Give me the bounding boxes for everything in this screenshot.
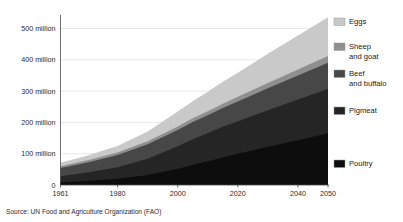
legend-label-beef-and-buffalo-line2: and buffalo [349, 79, 386, 88]
source-caption: Source: UN Food and Agriculture Organiza… [6, 208, 161, 216]
legend-label-sheep-and-goat-line2: and goat [349, 52, 379, 61]
x-tick-label-2040: 2040 [290, 189, 306, 198]
y-axis-tick-labels: 0100 million200 million300 million400 mi… [21, 24, 55, 189]
x-tick-label-2050: 2050 [320, 189, 336, 198]
legend-label-poultry: Poultry [349, 159, 373, 168]
legend-swatch-eggs [334, 18, 345, 26]
legend-swatch-poultry [334, 160, 345, 168]
legend-label-sheep-and-goat-line1: Sheep [349, 42, 371, 51]
legend-label-beef-and-buffalo-line1: Beef [349, 69, 366, 78]
x-tick-label-2020: 2020 [230, 189, 246, 198]
chart-legend: EggsSheepand goatBeefand buffaloPigmeatP… [334, 17, 386, 168]
y-tick-label-500: 500 million [21, 24, 55, 33]
y-tick-label-200: 200 million [21, 118, 55, 127]
legend-swatch-sheep-and-goat [334, 43, 345, 51]
x-tick-label-1961: 1961 [53, 189, 69, 198]
y-tick-label-100: 100 million [21, 149, 55, 158]
stacked-area-chart: 0100 million200 million300 million400 mi… [0, 0, 403, 222]
y-tick-label-300: 300 million [21, 87, 55, 96]
x-tick-label-1980: 1980 [110, 189, 126, 198]
area-series-group [61, 17, 329, 185]
x-tick-label-2000: 2000 [170, 189, 186, 198]
x-axis-tick-labels: 196119802000202020402050 [53, 189, 337, 198]
legend-label-pigmeat: Pigmeat [349, 106, 378, 115]
legend-label-eggs: Eggs [349, 17, 367, 26]
y-tick-label-400: 400 million [21, 55, 55, 64]
legend-swatch-beef-and-buffalo [334, 70, 345, 78]
chart-canvas: 0100 million200 million300 million400 mi… [0, 0, 403, 222]
legend-swatch-pigmeat [334, 107, 345, 115]
